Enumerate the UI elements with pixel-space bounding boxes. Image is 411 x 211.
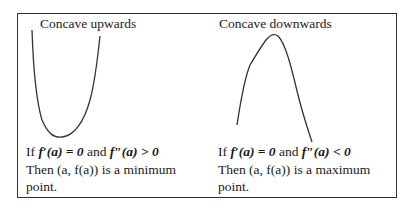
maximum-condition: If f′(a) = 0 and f″(a) < 0: [218, 144, 351, 160]
concave-down-curve: [237, 35, 312, 142]
conclusion-line-1: Then (a, f(a)) is a minimum: [26, 161, 196, 178]
conclusion-line-2: point.: [218, 178, 388, 195]
first-derivative-condition: f′(a) = 0: [38, 144, 83, 159]
condition-prefix: If: [26, 144, 38, 159]
maximum-conclusion: Then (a, f(a)) is a maximum point.: [218, 161, 388, 195]
concave-up-title: Concave upwards: [40, 16, 136, 32]
minimum-condition: If f′(a) = 0 and f″(a) > 0: [26, 144, 159, 160]
condition-prefix: If: [218, 144, 230, 159]
first-derivative-condition: f′(a) = 0: [230, 144, 275, 159]
condition-conjunction: and: [84, 144, 110, 159]
second-derivative-condition: f″(a) < 0: [302, 144, 351, 159]
concave-down-title: Concave downwards: [219, 16, 332, 32]
minimum-conclusion: Then (a, f(a)) is a minimum point.: [26, 161, 196, 195]
conclusion-line-2: point.: [26, 178, 196, 195]
conclusion-line-1: Then (a, f(a)) is a maximum: [218, 161, 388, 178]
condition-conjunction: and: [276, 144, 302, 159]
concave-up-curve: [32, 30, 100, 137]
second-derivative-condition: f″(a) > 0: [110, 144, 159, 159]
